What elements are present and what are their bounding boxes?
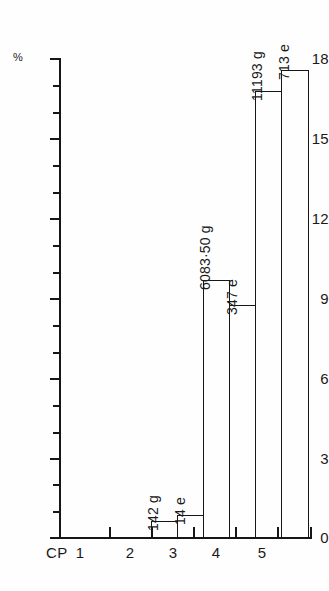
y-tick-minor-16 <box>53 112 61 114</box>
y-tick-15 <box>50 138 61 140</box>
histogram-figure: % 18 15 12 9 6 3 0 CP 1 2 3 4 5 142 g 14… <box>0 0 329 591</box>
x-axis-label-1: 1 <box>68 545 92 561</box>
y-tick-minor-14 <box>53 165 61 167</box>
y-tick-minor-5 <box>53 405 61 407</box>
y-tick-18 <box>50 58 61 60</box>
x-tick-boundary-6 <box>310 527 312 539</box>
bar-label-cp5-e: 713 e <box>277 44 291 80</box>
x-axis-prefix-label: CP <box>46 545 67 561</box>
y-tick-minor-8 <box>53 325 61 327</box>
x-axis-label-5: 5 <box>250 545 274 561</box>
y-tick-3 <box>50 458 61 460</box>
y-tick-6 <box>50 378 61 380</box>
y-tick-minor-1 <box>53 511 61 513</box>
y-axis-unit-label: % <box>13 52 23 63</box>
y-tick-12 <box>50 218 61 220</box>
x-axis-label-3: 3 <box>161 545 185 561</box>
y-tick-minor-2 <box>53 484 61 486</box>
y-tick-minor-13 <box>53 192 61 194</box>
y-tick-minor-7 <box>53 352 61 354</box>
y-tick-minor-4 <box>53 432 61 434</box>
y-tick-minor-11 <box>53 245 61 247</box>
bar-cp4-g <box>203 280 230 538</box>
bar-label-cp4-e: 347 e <box>225 279 239 315</box>
y-tick-9 <box>50 298 61 300</box>
y-tick-minor-10 <box>53 272 61 274</box>
bar-cp5-g <box>255 91 282 538</box>
bar-label-cp3-e: 14 e <box>173 497 187 525</box>
y-tick-minor-17 <box>53 85 61 87</box>
bar-label-cp4-g: 6083·50 g <box>198 225 212 290</box>
x-tick-boundary-1 <box>109 527 111 539</box>
bar-cp5-e <box>281 70 309 538</box>
x-axis-label-4: 4 <box>204 545 228 561</box>
x-axis-label-2: 2 <box>118 545 142 561</box>
bar-label-cp5-g: 11193 g <box>250 51 264 101</box>
bar-label-cp3-g: 142 g <box>146 495 160 531</box>
bar-cp4-e <box>229 305 256 538</box>
